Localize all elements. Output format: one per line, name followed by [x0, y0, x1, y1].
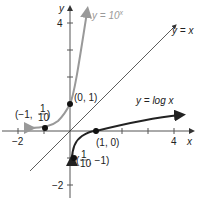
y-axis-label: y [58, 3, 65, 14]
x-tick-neg2: −2 [12, 136, 24, 147]
graph: −2 4 x 4 −2 y y = x y = 10x y = log x (0… [0, 0, 205, 199]
y-tick-4: 4 [57, 18, 63, 29]
y-axis: 4 −2 y [52, 3, 73, 198]
point-neg1-tenth [42, 125, 48, 131]
exponential-label: y = 10x [91, 9, 124, 21]
y-tick-neg2: −2 [52, 180, 64, 191]
x-axis-label: x [186, 136, 193, 147]
point-neg1-tenth-label: (−1, [15, 109, 33, 120]
exponential-curve [30, 12, 87, 128]
logarithm-curve [72, 115, 180, 160]
svg-text:): ) [47, 109, 50, 120]
identity-label: y = x [171, 25, 194, 36]
point-0-1-label: (0, 1) [74, 92, 97, 103]
point-0-1 [67, 101, 73, 107]
svg-text:, −1): , −1) [89, 155, 109, 166]
x-tick-4: 4 [171, 136, 177, 147]
logarithm-label: y = log x [135, 95, 175, 106]
point-1-0 [93, 128, 99, 134]
point-1-0-label: (1, 0) [96, 137, 119, 148]
